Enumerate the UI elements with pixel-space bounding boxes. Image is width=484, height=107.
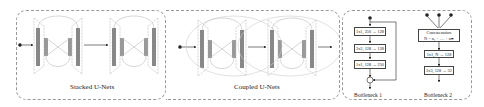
b2-layer-1: 1x1, N → 128 [424,50,454,58]
bottleneck1-caption: Bottleneck 1 [354,92,382,98]
b1-layer-2: 3x3, 128 → 128 [354,44,386,53]
bottleneck2-caption: Bottleneck 2 [424,92,452,98]
b1-add-symbol: + [368,75,371,80]
coupled-caption: Coupled U-Nets [234,83,280,91]
b1-layer-3: 1x1, 128 → 256 [354,60,386,69]
b2-concat-formula: N = n₁ + … + nₘ [419,36,459,42]
b1-layer-1: 1x1, 256 → 128 [354,27,386,36]
b2-concat-box: Concatenation N = n₁ + … + nₘ [418,29,460,42]
b2-layer-2: 3x3, 128 → 32 [424,66,454,75]
stacked-caption: Stacked U-Nets [70,83,114,91]
